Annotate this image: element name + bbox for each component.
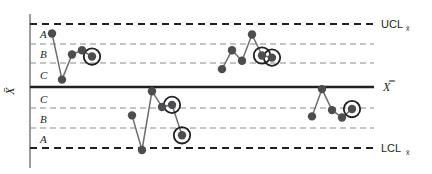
- data-point[interactable]: [148, 87, 156, 95]
- data-point-flagged[interactable]: [258, 51, 266, 59]
- data-point-flagged[interactable]: [268, 53, 276, 61]
- data-point[interactable]: [218, 65, 226, 73]
- y-axis-label: X̄: [3, 87, 17, 96]
- zone-label-a-lower: A: [39, 133, 47, 145]
- ucl-label: UCL: [381, 18, 403, 30]
- lcl-label: LCL: [381, 142, 401, 154]
- zone-label-c-upper: C: [40, 69, 48, 81]
- data-point-flagged[interactable]: [168, 101, 176, 109]
- data-point[interactable]: [228, 46, 236, 54]
- data-point[interactable]: [58, 75, 66, 83]
- zone-label-a-upper: A: [39, 28, 47, 40]
- data-point[interactable]: [68, 50, 76, 58]
- control-chart-canvas: A B C C B A X̄ UCL x̄ X̿ LCL x̄: [0, 0, 432, 174]
- control-chart: A B C C B A X̄ UCL x̄ X̿ LCL x̄: [0, 0, 432, 174]
- lcl-label-subscript: x̄: [406, 149, 410, 156]
- data-point[interactable]: [318, 85, 326, 93]
- zone-label-b-upper: B: [40, 48, 47, 60]
- data-point[interactable]: [158, 103, 166, 111]
- data-point-flagged[interactable]: [178, 131, 186, 139]
- data-point[interactable]: [338, 113, 346, 121]
- data-point[interactable]: [308, 112, 316, 120]
- zone-label-b-lower: B: [40, 113, 47, 125]
- data-point-flagged[interactable]: [348, 105, 356, 113]
- data-point-flagged[interactable]: [88, 52, 96, 60]
- data-point[interactable]: [128, 111, 136, 119]
- data-point[interactable]: [78, 46, 86, 54]
- data-point[interactable]: [138, 146, 146, 154]
- zone-label-c-lower: C: [40, 93, 48, 105]
- data-point[interactable]: [48, 29, 56, 37]
- data-point[interactable]: [328, 106, 336, 114]
- data-point[interactable]: [238, 57, 246, 65]
- ucl-label-subscript: x̄: [406, 25, 410, 32]
- data-point[interactable]: [248, 30, 256, 38]
